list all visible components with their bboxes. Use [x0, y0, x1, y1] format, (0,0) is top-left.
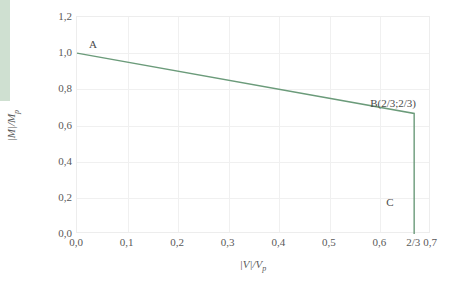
- x-axis-label: |V|/Vp: [76, 258, 430, 273]
- x-tick-two-thirds: 2/3: [406, 237, 420, 248]
- x-axis-label-main: |V|/V: [240, 258, 263, 270]
- y-tick-0-8: 0,8: [38, 83, 72, 94]
- y-tick-0-2: 0,2: [38, 192, 72, 203]
- annotation-point-a: A: [89, 39, 97, 50]
- annotation-point-c: C: [386, 197, 393, 208]
- y-tick-1-0: 1,0: [38, 47, 72, 58]
- x-axis-tick-labels: 0,0 0,1 0,2 0,3 0,4 0,5 0,6 2/3 0,7: [76, 237, 430, 253]
- y-tick-0-4: 0,4: [38, 156, 72, 167]
- x-tick-0-6: 0,6: [373, 237, 387, 248]
- plot-area: A B(2/3;2/3) C: [76, 16, 430, 233]
- x-tick-0-0: 0,0: [69, 237, 83, 248]
- data-curve-svg: [77, 17, 431, 234]
- y-axis-label-main: |M|/M: [5, 114, 17, 141]
- y-axis-label-subscript: p: [12, 110, 21, 114]
- y-axis-label: |M|/Mp: [5, 86, 20, 166]
- y-tick-0-0: 0,0: [38, 228, 72, 239]
- mv-interaction-chart: 1,2 1,0 0,8 0,6 0,4 0,2 0,0 A B(2/3;2/3)…: [0, 0, 456, 286]
- interaction-curve: [77, 53, 414, 234]
- y-axis-tick-labels: 1,2 1,0 0,8 0,6 0,4 0,2 0,0: [34, 16, 72, 233]
- x-tick-0-3: 0,3: [221, 237, 235, 248]
- x-tick-0-1: 0,1: [120, 237, 134, 248]
- x-axis-label-subscript: p: [262, 264, 266, 273]
- y-tick-0-6: 0,6: [38, 120, 72, 131]
- x-tick-0-2: 0,2: [170, 237, 184, 248]
- x-tick-0-4: 0,4: [271, 237, 285, 248]
- annotation-point-b: B(2/3;2/3): [370, 98, 416, 109]
- x-tick-0-5: 0,5: [322, 237, 336, 248]
- x-tick-0-7: 0,7: [423, 237, 437, 248]
- y-tick-1-2: 1,2: [38, 11, 72, 22]
